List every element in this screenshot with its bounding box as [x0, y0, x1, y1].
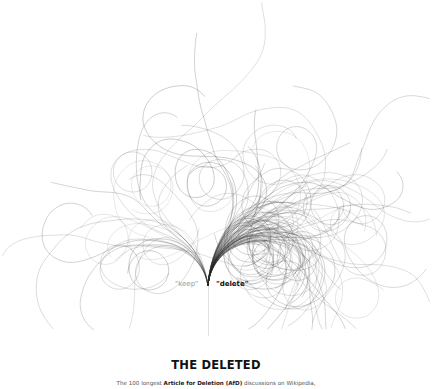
- keep-label: "keep": [175, 280, 198, 289]
- discussion-path: [36, 219, 208, 329]
- discussion-path: [111, 149, 237, 286]
- discussion-path: [208, 96, 430, 286]
- subtitle-post: discussions on Wikipedia,: [242, 380, 315, 386]
- subtitle-pre: The 100 longest: [117, 380, 164, 386]
- discussion-path: [143, 225, 208, 286]
- subtitle-bold: Article for Deletion (AfD): [164, 380, 243, 386]
- discussion-path: [42, 203, 208, 286]
- discussion-path: [143, 107, 325, 286]
- afd-discussion-tree: [0, 0, 432, 340]
- tree-stem: [208, 286, 209, 336]
- chart-subtitle: The 100 longest Article for Deletion (Af…: [0, 380, 432, 386]
- delete-label: "delete": [216, 280, 248, 289]
- discussion-path: [143, 86, 267, 286]
- chart-title: THE DELETED: [0, 358, 432, 372]
- discussion-path: [129, 175, 208, 294]
